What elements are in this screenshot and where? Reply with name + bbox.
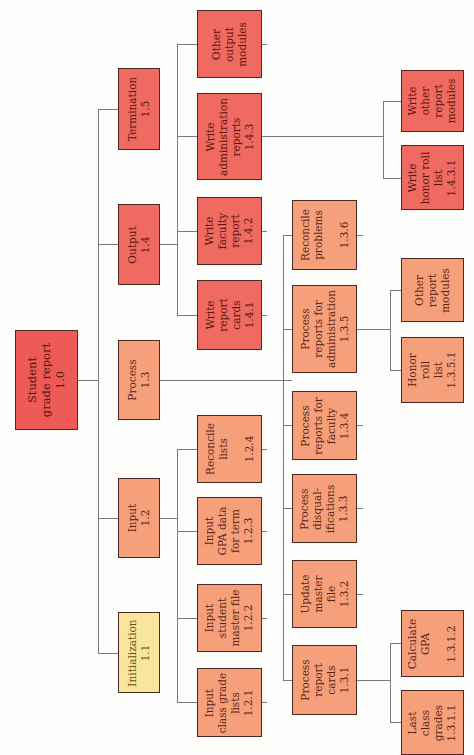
connector (390, 722, 401, 723)
connector (357, 235, 363, 236)
connector (383, 101, 401, 102)
node-label: Input class grade lists 1.2.1 (204, 672, 256, 733)
connector (177, 136, 197, 137)
node-input-gpa-data: Input GPA data for term 1.2.3 (197, 497, 262, 565)
node-write-honor-roll-list: Write honor roll list 1.4.3.1 (401, 145, 464, 210)
node-input: Input 1.2 (118, 478, 160, 558)
node-label: Other report modules (413, 268, 452, 313)
node-label: Output 1.4 (126, 226, 152, 263)
node-label: Write other report modules (406, 79, 458, 124)
node-input-student-master-file: Input student master file 1.2.2 (197, 584, 262, 652)
node-initialization: Initialization 1.1 (118, 612, 160, 693)
connector (390, 643, 391, 722)
node-label: Write report cards 1.4.1 (203, 298, 255, 332)
connector (262, 136, 383, 137)
node-label: Process reports for administration 1.3.5 (299, 290, 351, 368)
node-reconcile-lists: Reconcile lists 1.2.4 (197, 415, 262, 483)
node-label: Write faculty report 1.4.2 (204, 213, 256, 249)
connector (98, 109, 118, 110)
connector (390, 370, 401, 371)
node-label: Process report cards 1.3.1 (299, 659, 351, 700)
connector (390, 643, 401, 644)
node-label: Calculate GPA 1.3.1.2 (406, 618, 458, 668)
connector (78, 380, 98, 381)
connector (177, 449, 197, 450)
connector (177, 44, 197, 45)
connector (98, 518, 118, 519)
connector (98, 244, 118, 245)
connector (177, 531, 197, 532)
node-write-administration-reports: Write administration reports 1.4.3 (197, 93, 262, 180)
connector (390, 290, 391, 370)
connector (177, 315, 197, 316)
connector (177, 618, 197, 619)
connector (283, 594, 292, 595)
connector (383, 178, 401, 179)
node-process: Process 1.3 (118, 340, 160, 420)
node-process-reports-faculty: Process reports for faculty 1.3.4 (292, 391, 357, 460)
node-label: Write honor roll list 1.4.3.1 (407, 151, 459, 204)
connector (357, 425, 363, 426)
connector (160, 380, 292, 381)
connector (262, 618, 267, 619)
connector (177, 231, 197, 232)
connector (160, 518, 177, 519)
node-other-report-modules: Other report modules (401, 258, 464, 322)
connector (283, 425, 292, 426)
node-label: Write administration reports 1.4.3 (204, 98, 256, 176)
node-label: Last class grades 1.3.1.1 (407, 704, 459, 741)
node-honor-roll-list: Honor roll list 1.3.5.1 (401, 337, 464, 403)
node-label: Other output modules (210, 22, 249, 67)
node-label: Input student master file 1.2.2 (203, 590, 255, 647)
node-input-class-grade-lists: Input class grade lists 1.2.1 (197, 668, 262, 737)
node-update-master-file: Update master file 1.3.2 (292, 560, 357, 628)
connector (283, 680, 292, 681)
node-write-report-cards: Write report cards 1.4.1 (197, 280, 262, 350)
connector (357, 594, 363, 595)
node-reconcile-problems: Reconcile problems 1.3.6 (292, 200, 357, 270)
connector (262, 315, 267, 316)
node-process-report-cards: Process report cards 1.3.1 (292, 645, 357, 715)
connector (357, 329, 390, 330)
connector (283, 329, 292, 330)
node-label: Update master file 1.3.2 (299, 575, 351, 614)
connector (383, 101, 384, 178)
connector (177, 702, 197, 703)
connector (177, 44, 178, 315)
node-label: Reconcile problems 1.3.6 (299, 209, 351, 261)
connector (390, 290, 401, 291)
node-calculate-gpa: Calculate GPA 1.3.1.2 (401, 610, 464, 677)
connector (357, 508, 363, 509)
connector (160, 244, 177, 245)
connector (98, 653, 118, 654)
node-label: Termination 1.5 (126, 77, 152, 141)
node-process-disqualifications: Process disqual- ifications 1.3.3 (292, 474, 357, 543)
node-write-faculty-report: Write faculty report 1.4.2 (197, 197, 262, 265)
connector (283, 508, 292, 509)
node-label: Process 1.3 (126, 359, 152, 400)
connector (357, 680, 390, 681)
node-label: Input GPA data for term 1.2.3 (204, 507, 256, 556)
connector (262, 702, 267, 703)
node-process-reports-administration: Process reports for administration 1.3.5 (292, 285, 357, 373)
node-label: Process reports for faculty 1.3.4 (299, 397, 351, 454)
node-label: Student grade report 1.0 (26, 343, 68, 417)
connector (177, 449, 178, 702)
node-label: Process disqual- ifications 1.3.3 (299, 484, 351, 533)
node-other-output-modules: Other output modules (197, 10, 262, 78)
node-write-other-report-modules: Write other report modules (401, 70, 464, 132)
node-label: Input 1.2 (126, 504, 152, 533)
node-student-grade-report: Student grade report 1.0 (15, 330, 78, 430)
node-last-class-grades: Last class grades 1.3.1.1 (401, 690, 464, 755)
node-label: Honor roll list 1.3.5.1 (407, 352, 459, 389)
connector (262, 44, 267, 45)
connector (262, 449, 267, 450)
node-label: Initialization 1.1 (126, 619, 152, 686)
connector (98, 109, 99, 653)
node-termination: Termination 1.5 (118, 68, 160, 150)
connector (283, 235, 292, 236)
connector (262, 531, 267, 532)
node-output: Output 1.4 (118, 204, 160, 285)
connector (283, 235, 284, 680)
connector (262, 231, 267, 232)
